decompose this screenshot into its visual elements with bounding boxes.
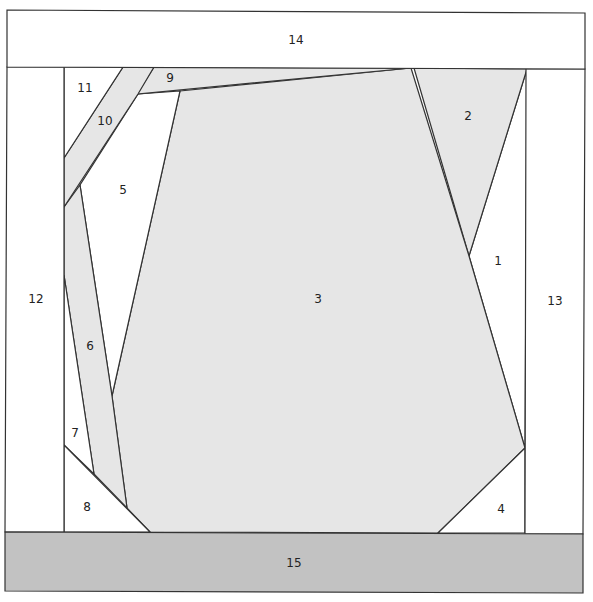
piece-label-5: 5 — [119, 183, 127, 197]
piece-label-2: 2 — [464, 109, 472, 123]
piece-label-1: 1 — [494, 254, 502, 268]
piece-label-10: 10 — [97, 114, 112, 128]
piece-label-14: 14 — [288, 33, 303, 47]
piece-label-7: 7 — [71, 426, 79, 440]
piece-label-6: 6 — [86, 339, 94, 353]
piece-label-12: 12 — [28, 292, 43, 306]
piece-label-13: 13 — [547, 294, 562, 308]
piece-label-15: 15 — [286, 556, 301, 570]
piece-label-8: 8 — [83, 500, 91, 514]
piece-label-3: 3 — [314, 292, 322, 306]
piece-label-9: 9 — [166, 71, 174, 85]
piece-label-4: 4 — [497, 502, 505, 516]
piece-label-11: 11 — [77, 81, 92, 95]
